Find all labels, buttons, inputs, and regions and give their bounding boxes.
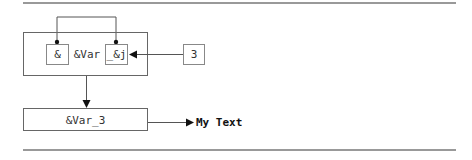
result-label: &Var_3 <box>66 114 106 127</box>
ampersand-label: & <box>54 48 61 61</box>
index-label: _&j <box>107 48 127 61</box>
input-value-label: 3 <box>191 48 198 61</box>
output-arrowhead-icon <box>186 119 194 127</box>
output-label: My Text <box>196 116 242 129</box>
var-label: &Var <box>74 48 101 61</box>
down-arrowhead-icon <box>83 100 91 108</box>
diagram-canvas: & &Var _&j 3 &Var_3 My Text <box>0 0 472 160</box>
input-arrowhead-icon <box>129 51 137 59</box>
right-connector-dot-icon <box>114 40 118 44</box>
concat-bracket <box>57 17 116 41</box>
left-connector-dot-icon <box>55 40 59 44</box>
